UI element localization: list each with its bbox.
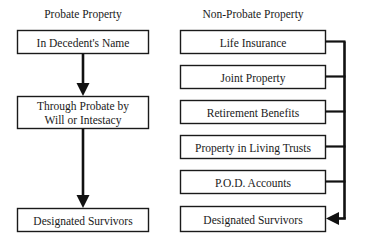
node-label-retirement-benefits: Retirement Benefits [207,107,300,119]
node-label-through-probate-line1: Through Probate by [37,100,129,113]
probate-property-flowchart: Probate Property Non-Probate Property In… [0,0,366,245]
node-label-life-insurance: Life Insurance [220,37,287,49]
node-life-insurance[interactable]: Life Insurance [181,31,346,54]
node-in-decedents-name[interactable]: In Decedent's Name [18,31,149,54]
node-label-joint-property: Joint Property [221,72,286,85]
right-column-heading: Non-Probate Property [202,8,303,21]
node-joint-property[interactable]: Joint Property [181,66,346,89]
connector-arrow-down-2 [77,129,90,209]
node-designated-survivors-left[interactable]: Designated Survivors [18,209,149,232]
node-label-pod-accounts: P.O.D. Accounts [215,177,292,189]
node-pod-accounts[interactable]: P.O.D. Accounts [181,171,346,194]
arrow-head-down-1 [77,83,90,96]
node-label-property-in-living-trusts: Property in Living Trusts [195,142,312,155]
arrow-head-down-2 [77,195,90,208]
node-designated-survivors-right[interactable]: Designated Survivors [181,207,326,232]
node-property-in-living-trusts[interactable]: Property in Living Trusts [181,136,346,159]
node-label-in-decedents-name: In Decedent's Name [37,37,130,49]
arrow-head-left [326,212,339,225]
left-column-heading: Probate Property [44,8,122,21]
node-retirement-benefits[interactable]: Retirement Benefits [181,101,346,124]
node-label-designated-survivors-left: Designated Survivors [33,215,133,228]
node-through-probate[interactable]: Through Probate by Will or Intestacy [18,97,149,129]
node-label-through-probate-line2: Will or Intestacy [45,114,122,127]
node-label-designated-survivors-right: Designated Survivors [203,214,303,227]
diagram-page: Probate Property Non-Probate Property In… [0,0,366,245]
connector-arrow-down-1 [77,54,90,97]
connector-arrow-left-into-designated-survivors [326,212,346,225]
